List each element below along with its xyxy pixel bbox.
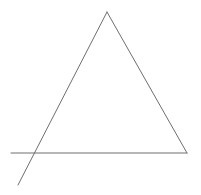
triangle-diagram (0, 0, 201, 195)
background (0, 0, 201, 195)
